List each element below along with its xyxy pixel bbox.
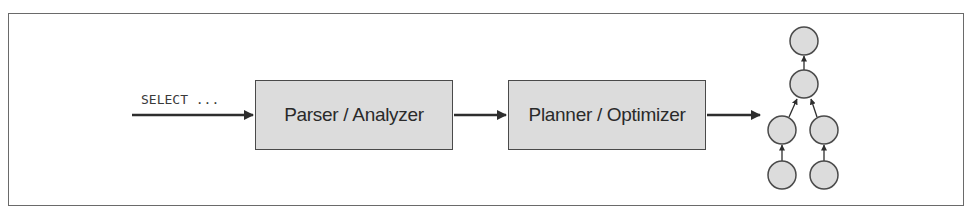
tree-node-right [810,116,838,144]
tree-node-left [768,116,796,144]
query-plan-tree [768,27,838,189]
diagram-connectors [0,0,975,215]
tree-node-left-leaf [768,161,796,189]
tree-node-root [790,27,818,55]
tree-node-right-leaf [810,161,838,189]
tree-node-mid [790,70,818,98]
